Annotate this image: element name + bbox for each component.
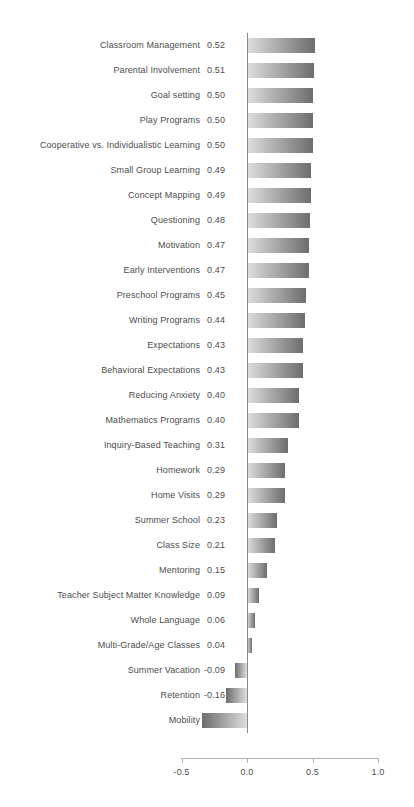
bar-segment bbox=[247, 563, 267, 578]
bar-segment bbox=[247, 113, 313, 128]
bar-segment bbox=[247, 163, 311, 178]
bar-row: Home Visits0.29 bbox=[0, 483, 414, 508]
bar-row: Mathematics Programs0.40 bbox=[0, 408, 414, 433]
bar-value-label: 0.15 bbox=[186, 558, 225, 583]
bar-value-label: 0.50 bbox=[186, 108, 225, 133]
bar-value-label: 0.44 bbox=[186, 308, 225, 333]
bar-segment bbox=[247, 463, 285, 478]
bar-value-label: 0.40 bbox=[186, 383, 225, 408]
bar-value-label: 0.23 bbox=[186, 508, 225, 533]
bar-row: Goal setting0.50 bbox=[0, 83, 414, 108]
bar-segment bbox=[247, 413, 299, 428]
bar-row: Motivation0.47 bbox=[0, 233, 414, 258]
bar-rows: Classroom Management0.52Parental Involve… bbox=[0, 33, 414, 733]
bar-segment bbox=[247, 513, 277, 528]
bar-segment bbox=[247, 538, 275, 553]
bar-value-label: 0.40 bbox=[186, 408, 225, 433]
bar-value-label: 0.48 bbox=[186, 208, 225, 233]
bar-row: Early Interventions0.47 bbox=[0, 258, 414, 283]
bar-row: Cooperative vs. Individualistic Learning… bbox=[0, 133, 414, 158]
bar-value-label: 0.45 bbox=[186, 283, 225, 308]
bar-value-label: 0.29 bbox=[186, 458, 225, 483]
bar-row: Play Programs0.50 bbox=[0, 108, 414, 133]
bar-category-label: Teacher Subject Matter Knowledge bbox=[57, 583, 200, 608]
bar-value-label: 0.50 bbox=[186, 83, 225, 108]
bar-segment bbox=[247, 213, 310, 228]
bar-category-label: Classroom Management bbox=[100, 33, 200, 58]
bar-row: Summer School0.23 bbox=[0, 508, 414, 533]
x-axis-tick-label: 0.5 bbox=[293, 767, 333, 777]
bar-chart: Classroom Management0.52Parental Involve… bbox=[0, 0, 414, 807]
bar-value-label: 0.47 bbox=[186, 258, 225, 283]
bar-row: Parental Involvement0.51 bbox=[0, 58, 414, 83]
bar-segment bbox=[235, 663, 247, 678]
bar-segment bbox=[247, 188, 311, 203]
bar-row: Questioning0.48 bbox=[0, 208, 414, 233]
bar-row: Class Size0.21 bbox=[0, 533, 414, 558]
x-axis-tick bbox=[182, 758, 183, 763]
bar-row: Summer Vacation-0.09 bbox=[0, 658, 414, 683]
bar-segment bbox=[247, 238, 309, 253]
bar-value-label: -0.16 bbox=[186, 683, 225, 708]
x-axis-tick-label: 1.0 bbox=[358, 767, 398, 777]
x-axis: -0.50.00.51.0 bbox=[0, 758, 414, 798]
bar-row: Preschool Programs0.45 bbox=[0, 283, 414, 308]
bar-value-label: 0.21 bbox=[186, 533, 225, 558]
bar-segment bbox=[247, 313, 305, 328]
bar-segment bbox=[247, 138, 313, 153]
bar-row: Whole Language0.06 bbox=[0, 608, 414, 633]
bar-segment bbox=[247, 438, 288, 453]
bar-category-label: Cooperative vs. Individualistic Learning bbox=[40, 133, 200, 158]
bar-row: Writing Programs0.44 bbox=[0, 308, 414, 333]
bar-value-label: 0.31 bbox=[186, 433, 225, 458]
bar-value-label: 0.04 bbox=[186, 633, 225, 658]
bar-segment bbox=[247, 88, 313, 103]
bar-row: Retention-0.16 bbox=[0, 683, 414, 708]
bar-row: Mentoring0.15 bbox=[0, 558, 414, 583]
bar-row: Reducing Anxiety0.40 bbox=[0, 383, 414, 408]
x-axis-tick-label: -0.5 bbox=[162, 767, 202, 777]
bar-row: Behavioral Expectations0.43 bbox=[0, 358, 414, 383]
bar-row: Teacher Subject Matter Knowledge0.09 bbox=[0, 583, 414, 608]
bar-row: Mobility-0.34 bbox=[0, 708, 414, 733]
bar-value-label: 0.49 bbox=[186, 183, 225, 208]
bar-segment bbox=[247, 263, 309, 278]
bar-value-label: 0.50 bbox=[186, 133, 225, 158]
bar-segment bbox=[247, 38, 315, 53]
bar-value-label: 0.47 bbox=[186, 233, 225, 258]
bar-value-label: -0.09 bbox=[186, 658, 225, 683]
bar-value-label: 0.51 bbox=[186, 58, 225, 83]
bar-row: Inquiry-Based Teaching0.31 bbox=[0, 433, 414, 458]
bar-row: Expectations0.43 bbox=[0, 333, 414, 358]
bar-segment bbox=[247, 63, 314, 78]
x-axis-tick bbox=[247, 758, 248, 763]
bar-segment bbox=[247, 288, 306, 303]
bar-category-label: Multi-Grade/Age Classes bbox=[98, 633, 200, 658]
bar-row: Concept Mapping0.49 bbox=[0, 183, 414, 208]
bar-value-label: 0.29 bbox=[186, 483, 225, 508]
x-axis-tick bbox=[378, 758, 379, 763]
bar-row: Classroom Management0.52 bbox=[0, 33, 414, 58]
bar-segment bbox=[247, 588, 259, 603]
bar-row: Homework0.29 bbox=[0, 458, 414, 483]
bar-segment bbox=[247, 388, 299, 403]
bar-value-label: 0.43 bbox=[186, 358, 225, 383]
bar-segment bbox=[202, 713, 247, 728]
bar-segment bbox=[226, 688, 247, 703]
bar-segment bbox=[247, 338, 303, 353]
x-axis-line bbox=[181, 758, 378, 759]
x-axis-tick-label: 0.0 bbox=[227, 767, 267, 777]
bar-value-label: 0.09 bbox=[186, 583, 225, 608]
bar-segment bbox=[247, 488, 285, 503]
bar-value-label: 0.06 bbox=[186, 608, 225, 633]
bar-value-label: 0.49 bbox=[186, 158, 225, 183]
bar-row: Multi-Grade/Age Classes0.04 bbox=[0, 633, 414, 658]
bar-segment bbox=[247, 363, 303, 378]
zero-axis-line bbox=[247, 33, 248, 733]
x-axis-tick bbox=[313, 758, 314, 763]
bar-value-label: 0.43 bbox=[186, 333, 225, 358]
bar-row: Small Group Learning0.49 bbox=[0, 158, 414, 183]
bar-value-label: 0.52 bbox=[186, 33, 225, 58]
bar-segment bbox=[247, 613, 255, 628]
